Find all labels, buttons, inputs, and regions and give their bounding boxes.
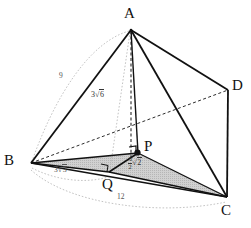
radicand-QP: 2 [137,157,142,167]
geometry-figure: A B C D P Q 9 3√3 12 3√6 32√2 [0,0,251,228]
measure-label-edge-BC: 12 [117,193,125,201]
vertex-label-P: P [144,139,152,154]
edge-DC [227,90,228,197]
edge-AD [131,30,228,90]
radicand-AQ: 6 [99,89,104,99]
vertex-label-D: D [232,78,243,93]
edge-AB [31,30,131,163]
edge-BD-hidden [31,90,228,163]
vertex-point-A [130,29,133,32]
radical-symbol-BQ: √3 [58,166,67,174]
radicand-BQ: 3 [62,164,67,174]
measure-label-seg-QP: 32√2 [128,156,142,171]
measure-label-height-AQ: 3√6 [91,91,104,99]
measure-label-edge-AB: 9 [59,72,63,80]
measure-label-edge-BQ: 3√3 [54,166,67,174]
radical-symbol-QP: √2 [132,159,141,167]
radical-symbol-AQ: √6 [95,91,104,99]
vertex-label-Q: Q [102,177,113,192]
figure-canvas [0,0,251,228]
vertex-label-A: A [124,6,135,21]
vertex-label-C: C [221,203,231,218]
vertex-point-P [134,149,140,155]
edge-AP [131,30,138,153]
vertex-label-B: B [4,153,14,168]
